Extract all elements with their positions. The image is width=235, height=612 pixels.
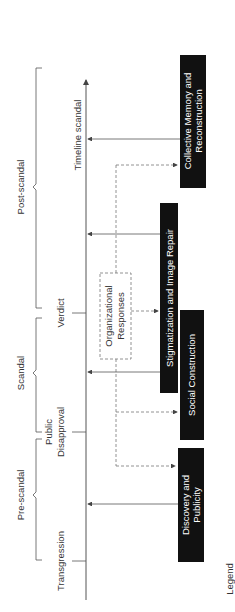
phase-scandal: Scandal xyxy=(15,356,26,390)
legend-label: Legend xyxy=(224,563,235,595)
event-public-disapproval-2: Disapproval xyxy=(55,407,66,457)
phase-pre-scandal: Pre-scandal xyxy=(15,470,26,521)
scandal-timeline-diagram: Timeline scandal Pre-scandal Scandal Pos… xyxy=(0,0,235,612)
bracket-scandal xyxy=(33,318,42,432)
process-stigmatization-line1: Stigmatization and Image Repair xyxy=(164,229,175,367)
process-discovery-line1: Discovery and xyxy=(180,475,191,535)
bracket-pre-scandal xyxy=(33,439,42,560)
event-public-disapproval-1: Public xyxy=(43,419,54,445)
process-discovery-line2: Publicity xyxy=(191,487,202,523)
process-collective-memory-line2: Reconstruction xyxy=(193,89,204,152)
process-collective-memory-line1: Collective Memory and xyxy=(182,73,193,170)
event-transgression: Transgression xyxy=(55,531,66,591)
bracket-post-scandal xyxy=(33,68,42,308)
phase-post-scandal: Post-scandal xyxy=(15,160,26,215)
timeline-label: Timeline scandal xyxy=(72,100,83,171)
organizational-responses-line2: Responses xyxy=(115,292,126,340)
event-verdict: Verdict xyxy=(55,298,66,327)
process-social-construction-line1: Social Construction xyxy=(186,334,197,416)
organizational-responses-line1: Organizational xyxy=(103,285,114,346)
